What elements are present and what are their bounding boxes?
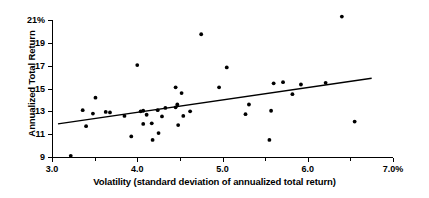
data-point [141, 109, 145, 113]
data-point [291, 92, 295, 96]
axes [48, 20, 394, 162]
data-point [272, 81, 276, 85]
plot-area [0, 0, 429, 198]
data-point [267, 138, 271, 142]
data-point [108, 111, 112, 115]
regression-line [58, 78, 372, 124]
trend-line [58, 78, 372, 124]
data-point [247, 103, 251, 107]
data-point [244, 112, 248, 116]
data-point [157, 131, 161, 135]
data-point [145, 113, 149, 117]
data-point [281, 80, 285, 84]
data-point [176, 123, 180, 127]
data-point [129, 135, 133, 139]
data-point [91, 112, 95, 116]
data-point [150, 121, 154, 125]
data-point [94, 96, 98, 100]
data-point [151, 138, 155, 142]
data-point [181, 114, 185, 118]
data-point [225, 65, 229, 69]
data-point [188, 109, 192, 113]
data-point [69, 154, 73, 158]
data-point [299, 83, 303, 87]
data-point [217, 85, 221, 89]
data-point [324, 81, 328, 85]
scatter-chart: Annualized Total Return Volatility (stan… [0, 0, 429, 198]
data-point [340, 15, 344, 19]
data-point [81, 108, 85, 112]
data-point [141, 122, 145, 126]
data-point [160, 115, 164, 119]
data-point [123, 114, 127, 118]
data-point [199, 32, 203, 36]
data-point [175, 103, 179, 107]
data-point [163, 106, 167, 110]
data-point [269, 109, 273, 113]
data-point [180, 91, 184, 95]
data-point [353, 120, 357, 124]
data-point [84, 124, 88, 128]
data-point [156, 108, 160, 112]
data-point [174, 85, 178, 89]
data-point [104, 110, 108, 114]
data-point [135, 63, 139, 67]
